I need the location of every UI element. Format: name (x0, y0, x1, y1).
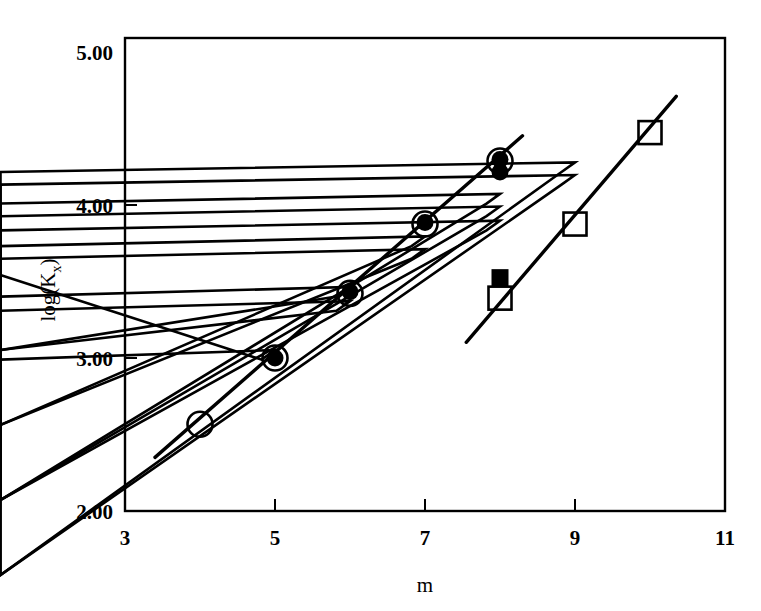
y-axis-title-close: ) (36, 259, 60, 266)
x-tick-label-9: 9 (570, 526, 581, 550)
data-point-filled-square (492, 269, 509, 286)
x-tick-label-5: 5 (270, 526, 281, 550)
y-tick-label-3: 3.00 (76, 347, 113, 371)
y-tick-label-2: 2.00 (76, 500, 113, 524)
plot-frame (125, 38, 725, 511)
x-tick-label-3: 3 (120, 526, 131, 550)
x-tick-labels: 3 5 7 9 11 (120, 526, 735, 550)
scatter-plot-svg: 5.00 4.00 3.00 2.00 3 5 7 9 11 m log(Kx) (0, 0, 761, 611)
data-point-filled-circle (342, 283, 359, 300)
y-axis-title-subscript: x (49, 266, 64, 273)
plot-area-border (125, 38, 725, 511)
x-tick-label-11: 11 (715, 526, 735, 550)
series-filled-square (492, 269, 509, 286)
chart-figure: 5.00 4.00 3.00 2.00 3 5 7 9 11 m log(Kx) (0, 0, 761, 611)
y-tick-label-5: 5.00 (76, 41, 113, 65)
data-point-filled-circle (267, 350, 284, 367)
x-tick-label-7: 7 (420, 526, 431, 550)
data-point-filled-circle (417, 214, 434, 231)
x-axis-title: m (417, 573, 433, 597)
data-point-filled-circle (492, 164, 509, 181)
y-axis-title-base: log(K (36, 273, 60, 322)
